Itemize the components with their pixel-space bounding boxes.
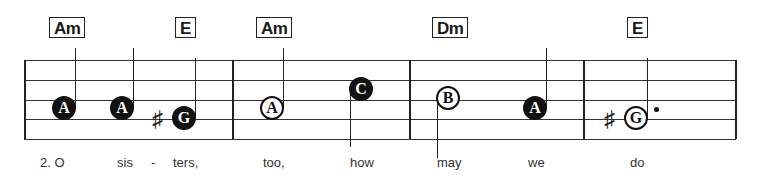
- sharp-icon: ♯: [604, 108, 615, 130]
- note-a: A: [110, 96, 134, 120]
- chord-symbol: E: [627, 17, 648, 38]
- barline: [583, 60, 585, 139]
- lyric-syllable: 2. O: [40, 155, 65, 170]
- note-stem: [195, 58, 196, 118]
- chord-symbol: Am: [49, 17, 85, 38]
- lyric-syllable: do: [630, 155, 644, 170]
- staff-line: [24, 139, 736, 140]
- note-stem: [546, 48, 547, 108]
- chord-symbol: Dm: [432, 17, 468, 38]
- staff-line: [24, 80, 736, 81]
- staff-line: [24, 60, 736, 61]
- sharp-icon: ♯: [152, 108, 163, 130]
- note-a: A: [523, 96, 547, 120]
- barline: [232, 60, 234, 139]
- note-g: G: [624, 106, 648, 130]
- note-stem: [647, 58, 648, 118]
- lyric-syllable: we: [528, 155, 545, 170]
- barline: [409, 60, 411, 139]
- lyric-syllable: sis: [117, 155, 133, 170]
- note-c: C: [349, 77, 373, 101]
- note-a: A: [260, 96, 284, 120]
- note-g: G: [172, 106, 196, 130]
- lyric-syllable: ters,: [173, 155, 198, 170]
- note-stem: [133, 48, 134, 108]
- note-stem: [283, 48, 284, 108]
- barline: [24, 60, 26, 139]
- lyric-syllable: -: [151, 155, 155, 170]
- note-b: B: [436, 86, 460, 110]
- note-stem: [350, 89, 351, 147]
- lyric-syllable: too,: [263, 155, 285, 170]
- lyric-syllable: may: [437, 155, 462, 170]
- note-stem: [75, 48, 76, 108]
- lyric-syllable: how: [350, 155, 374, 170]
- note-stem: [437, 98, 438, 158]
- dot-icon: [654, 107, 659, 112]
- chord-symbol: Am: [256, 17, 292, 38]
- note-a: A: [52, 96, 76, 120]
- chord-symbol: E: [175, 17, 196, 38]
- barline: [735, 60, 737, 139]
